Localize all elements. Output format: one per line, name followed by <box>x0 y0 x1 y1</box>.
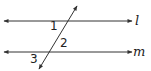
angle-3-label: 3 <box>30 52 38 66</box>
parallel-lines-diagram: l m 1 2 3 <box>0 0 151 71</box>
angle-1-label: 1 <box>50 19 58 33</box>
angle-2-label: 2 <box>60 36 68 50</box>
transversal <box>39 6 77 69</box>
line-m-label: m <box>133 44 145 59</box>
line-l-label: l <box>135 13 139 28</box>
